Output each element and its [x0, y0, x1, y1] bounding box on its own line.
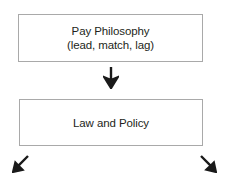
- node-law-and-policy-line-1: Law and Policy: [73, 116, 149, 130]
- node-pay-philosophy[interactable]: Pay Philosophy (lead, match, lag): [18, 14, 203, 62]
- node-law-and-policy[interactable]: Law and Policy: [19, 99, 203, 146]
- arrow-down-left-icon: [11, 153, 31, 175]
- arrow-down-icon: [101, 66, 121, 90]
- flow-diagram-canvas: Pay Philosophy (lead, match, lag) Law an…: [0, 0, 235, 179]
- node-pay-philosophy-line-2: (lead, match, lag): [67, 38, 154, 52]
- arrow-down-right-icon: [198, 153, 218, 175]
- node-pay-philosophy-line-1: Pay Philosophy: [72, 24, 150, 38]
